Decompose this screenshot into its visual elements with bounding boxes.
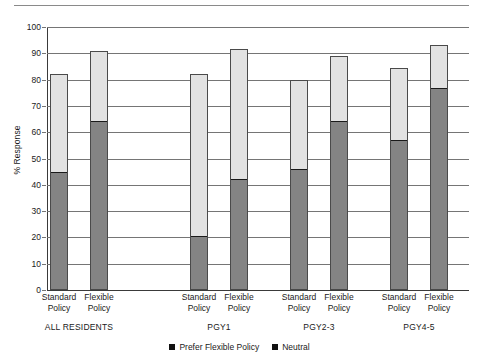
y-tick-mark-40 (42, 185, 46, 186)
group-label-pgy2-3: PGY2-3 (303, 322, 334, 332)
x-axis-label-line2: Policy (224, 303, 253, 314)
x-axis-label-line2: Policy (84, 303, 113, 314)
bar (90, 51, 108, 290)
bar-segment-prefer-flexible-policy (231, 179, 247, 289)
x-axis-label-line2: Policy (424, 303, 453, 314)
y-axis-title: % Response (12, 105, 22, 195)
x-axis-label-line1: Standard (182, 292, 217, 303)
chart-legend: Prefer Flexible PolicyNeutral (0, 342, 479, 352)
x-axis-label-line1: Flexible (84, 292, 113, 303)
plot-area: 0102030405060708090100 (47, 27, 469, 290)
y-tick-mark-70 (42, 106, 46, 107)
bar-segment-prefer-flexible-policy (391, 140, 407, 289)
x-axis-label: StandardPolicy (282, 292, 317, 314)
x-axis-label: FlexiblePolicy (324, 292, 353, 314)
group-label-pgy1: PGY1 (207, 322, 230, 332)
legend-label: Prefer Flexible Policy (179, 342, 259, 352)
bar-segment-prefer-flexible-policy (191, 236, 207, 289)
bar-segment-prefer-flexible-policy (51, 172, 67, 289)
y-tick-mark-50 (42, 159, 46, 160)
x-axis-label: StandardPolicy (382, 292, 417, 314)
x-axis-label-line2: Policy (282, 303, 317, 314)
bar (290, 80, 308, 290)
bar-segment-prefer-flexible-policy (91, 121, 107, 289)
y-tick-mark-100 (42, 27, 46, 28)
bar-segment-prefer-flexible-policy (331, 121, 347, 289)
gridline-0 (47, 290, 469, 291)
y-tick-label-10: 10 (32, 259, 41, 268)
bar (390, 68, 408, 290)
top-divider-rule (14, 5, 469, 6)
x-axis-group-labels: ALL RESIDENTSPGY1PGY2-3PGY4-5 (47, 322, 469, 336)
bar (190, 74, 208, 290)
y-tick-label-30: 30 (32, 207, 41, 216)
x-axis-label-line1: Standard (42, 292, 77, 303)
y-tick-label-60: 60 (32, 128, 41, 137)
y-tick-label-100: 100 (27, 23, 41, 32)
legend-swatch-icon (169, 344, 175, 350)
x-axis-labels: StandardPolicyFlexiblePolicyStandardPoli… (47, 292, 469, 318)
x-axis-label-line2: Policy (182, 303, 217, 314)
x-axis-label: FlexiblePolicy (424, 292, 453, 314)
x-axis-label-line1: Flexible (224, 292, 253, 303)
bar-segment-prefer-flexible-policy (431, 88, 447, 289)
bar (50, 74, 68, 290)
legend-swatch-icon (272, 344, 278, 350)
x-axis-label-line1: Flexible (324, 292, 353, 303)
x-axis-label-line2: Policy (42, 303, 77, 314)
x-axis-label: StandardPolicy (42, 292, 77, 314)
x-axis-label: FlexiblePolicy (84, 292, 113, 314)
y-tick-label-50: 50 (32, 154, 41, 163)
legend-label: Neutral (282, 342, 309, 352)
x-axis-label-line2: Policy (382, 303, 417, 314)
bar (430, 45, 448, 290)
bar (230, 49, 248, 290)
y-tick-mark-90 (42, 53, 46, 54)
y-tick-mark-0 (42, 290, 46, 291)
y-tick-mark-30 (42, 211, 46, 212)
gridline-90 (47, 53, 469, 54)
y-tick-label-20: 20 (32, 233, 41, 242)
gridline-100 (47, 27, 469, 28)
y-tick-mark-20 (42, 237, 46, 238)
y-tick-label-80: 80 (32, 75, 41, 84)
x-axis-label-line2: Policy (324, 303, 353, 314)
legend-item: Neutral (272, 342, 309, 352)
y-tick-label-90: 90 (32, 49, 41, 58)
y-tick-mark-10 (42, 264, 46, 265)
bar (330, 56, 348, 290)
y-tick-label-70: 70 (32, 102, 41, 111)
y-tick-label-0: 0 (36, 286, 41, 295)
x-axis-label: StandardPolicy (182, 292, 217, 314)
y-tick-mark-60 (42, 132, 46, 133)
bar-segment-prefer-flexible-policy (291, 169, 307, 289)
x-axis-label-line1: Standard (382, 292, 417, 303)
x-axis-label: FlexiblePolicy (224, 292, 253, 314)
chart-page: % Response 0102030405060708090100 Standa… (0, 0, 479, 364)
x-axis-label-line1: Flexible (424, 292, 453, 303)
y-tick-mark-80 (42, 80, 46, 81)
group-label-all-residents: ALL RESIDENTS (45, 322, 113, 332)
x-axis-label-line1: Standard (282, 292, 317, 303)
legend-item: Prefer Flexible Policy (169, 342, 259, 352)
y-tick-label-40: 40 (32, 181, 41, 190)
group-label-pgy4-5: PGY4-5 (403, 322, 434, 332)
